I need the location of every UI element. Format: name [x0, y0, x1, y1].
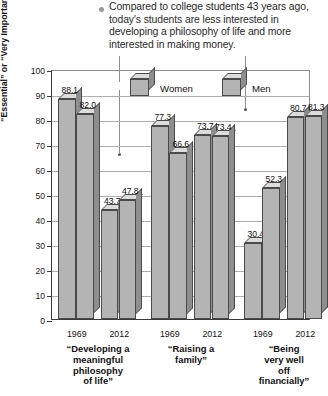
x-axis-group-label: “Being very welloff financially” — [259, 344, 310, 387]
x-axis-group-label-line: “Being very well — [259, 344, 310, 366]
legend-swatch-side-face — [149, 67, 155, 90]
y-axis-tick-label: 70 — [35, 141, 45, 151]
y-axis-tick-label: 30 — [35, 241, 45, 251]
y-axis-tick-label: 100 — [31, 66, 45, 76]
x-axis-year-label: 2012 — [202, 329, 222, 339]
legend-swatch-women — [130, 79, 149, 96]
x-axis-year-label: 2012 — [295, 329, 315, 339]
y-axis-tick-label: 60 — [35, 166, 45, 176]
x-axis-year-label: 2012 — [109, 329, 129, 339]
legend-label-women: Women — [160, 83, 193, 94]
y-axis-tick-label: 80 — [35, 116, 45, 126]
y-axis-title-line2: “Essential” or “Very Important” — [0, 0, 9, 122]
x-axis-year-label: 1969 — [253, 329, 273, 339]
y-axis-tick-label: 50 — [35, 191, 45, 201]
x-axis-group-label: “Raising afamily” — [168, 344, 214, 366]
y-axis-tick-label: 20 — [35, 266, 45, 276]
y-axis-title: Percentage Calling Objective “Essential”… — [0, 0, 9, 122]
bar-value-label: 81.3 — [308, 102, 325, 112]
x-axis-group-label-line: family” — [168, 355, 214, 366]
plot-area: 1009080706050403020100 88.182.043.747.87… — [51, 70, 310, 320]
y-axis-tick-label: 10 — [35, 291, 45, 301]
y-axis-tick-mark — [47, 321, 52, 322]
x-axis-year-label: 1969 — [67, 329, 87, 339]
legend-swatch-men — [222, 79, 241, 96]
legend: Women Men — [52, 71, 309, 319]
x-axis-group-label-line: off financially” — [259, 366, 310, 388]
legend-swatch-front-face — [222, 79, 241, 96]
x-axis-group-label-line: of life” — [66, 376, 129, 387]
y-axis-tick-label: 40 — [35, 216, 45, 226]
y-axis-tick-label: 0 — [40, 316, 45, 326]
x-axis-group-label: “Developing ameaningfulphilosophyof life… — [66, 344, 129, 387]
legend-swatch-front-face — [130, 79, 149, 96]
bar-side-face — [322, 104, 328, 313]
legend-swatch-side-face — [241, 67, 247, 90]
x-axis-year-label: 1969 — [160, 329, 180, 339]
y-axis-tick-label: 90 — [35, 91, 45, 101]
legend-label-men: Men — [252, 83, 271, 94]
x-axis-group-label-line: meaningful — [66, 355, 129, 366]
